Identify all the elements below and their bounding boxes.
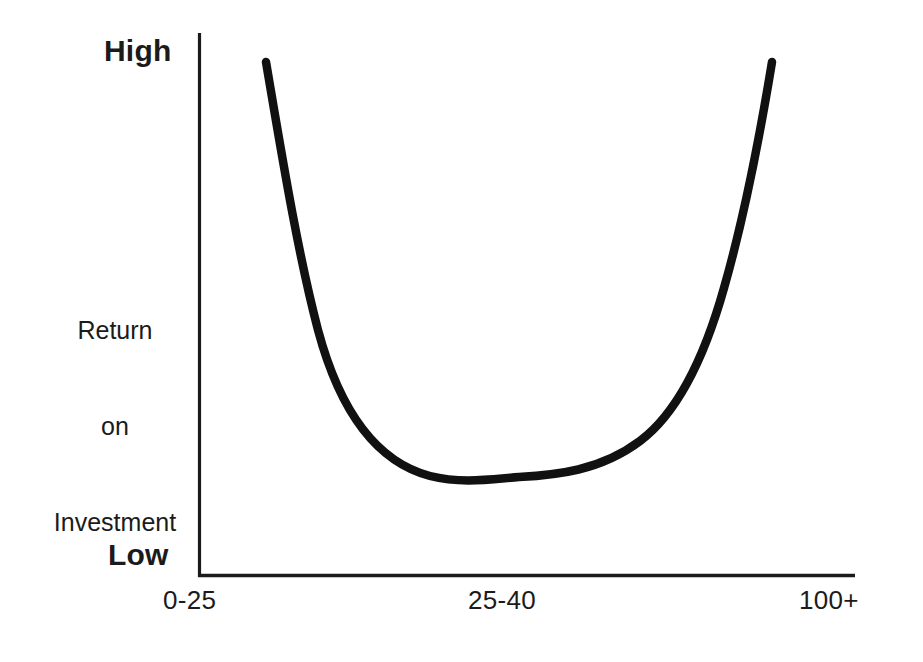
y-axis-title: Return on Investment	[40, 250, 190, 602]
x-axis-tick-label-0-25: 0-25	[163, 587, 216, 613]
roi-curve-line	[266, 62, 772, 480]
x-axis-tick-label-100-plus: 100+	[799, 587, 859, 613]
chart-figure: High Low Return on Investment 0-25 25-40…	[0, 0, 923, 662]
y-axis-title-line-1: Return	[40, 314, 190, 346]
y-axis-high-label: High	[104, 36, 171, 66]
y-axis-title-line-2: on	[40, 410, 190, 442]
y-axis-title-line-3: Investment	[40, 506, 190, 538]
x-axis-tick-label-25-40: 25-40	[468, 587, 536, 613]
